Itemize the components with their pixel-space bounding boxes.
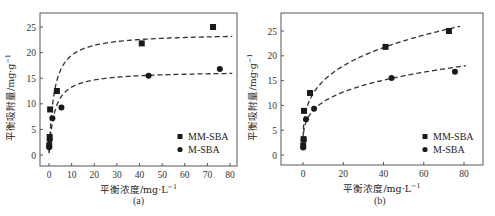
y-axis-label: 平衡吸附量/mg·g−1 [246,54,258,141]
data-point-circle [301,137,307,143]
legend-square-icon [423,134,428,139]
data-point-square [383,44,389,50]
x-tick-label: 40 [135,170,145,180]
legend-circle-icon [422,147,427,152]
data-point-square [301,108,307,114]
y-tick-label: 10 [268,101,278,111]
legend: MM-SBAM-SBA [422,131,474,155]
legend-label: MM-SBA [433,131,474,142]
y-tick-label: 25 [268,27,278,37]
legend-circle-icon [177,147,182,152]
x-axis-label: 平衡浓度/mg·L−1 [100,183,177,195]
x-tick-label: 80 [459,169,469,179]
data-point-circle [49,115,55,121]
x-axis-label: 平衡浓度/mg·L−1 [343,182,420,194]
data-point-circle [46,144,52,150]
x-tick-label: 60 [180,170,190,180]
data-point-square [307,90,313,96]
plot-frame [281,13,483,165]
chart-panel-a: 010203040506070800510152025平衡浓度/mg·L−1平衡… [4,13,237,195]
data-point-circle [303,116,309,122]
x-tick-label: 50 [157,170,167,180]
chart-panel-b: 0204060800510152025平衡浓度/mg·L−1平衡吸附量/mg·g… [246,13,483,194]
data-point-circle [217,66,223,72]
x-tick-label: 20 [339,169,349,179]
x-tick-label: 60 [419,169,429,179]
data-point-square [139,40,145,46]
y-tick-label: 20 [268,51,278,61]
x-tick-label: 80 [225,170,235,180]
legend-label: M-SBA [188,144,220,155]
data-point-circle [47,137,53,143]
y-tick-label: 20 [27,48,37,58]
x-tick-label: 30 [112,170,122,180]
x-tick-label: 10 [67,170,77,180]
data-point-square [54,88,60,94]
data-point-square [446,28,452,34]
x-tick-label: 0 [301,169,306,179]
data-point-circle [300,145,306,151]
x-tick-label: 20 [90,170,100,180]
x-tick-label: 70 [203,170,213,180]
legend-label: M-SBA [433,144,465,155]
y-tick-label: 0 [272,151,277,161]
x-tick-label: 40 [379,169,389,179]
data-point-circle [311,106,317,112]
fit-curve-mm-sba [303,26,460,137]
data-point-square [47,106,53,112]
data-point-circle [58,104,64,110]
adsorption-isotherm-figure: 010203040506070800510152025平衡浓度/mg·L−1平衡… [0,0,495,216]
y-tick-label: 10 [27,99,37,109]
panel-b-caption: (b) [374,195,386,206]
y-tick-label: 5 [272,126,277,136]
y-tick-label: 5 [31,125,36,135]
panel-a-caption: (a) [133,195,144,206]
y-tick-label: 15 [268,76,278,86]
y-tick-label: 15 [27,74,37,84]
data-point-circle [389,75,395,81]
legend-square-icon [178,134,183,139]
legend: MM-SBAM-SBA [177,131,229,155]
x-tick-label: 0 [47,170,52,180]
y-axis-label: 平衡吸附量/mg·g−1 [4,54,16,141]
data-point-square [210,24,216,30]
y-tick-label: 25 [27,23,37,33]
legend-label: MM-SBA [188,131,229,142]
data-point-circle [146,73,152,79]
y-tick-label: 0 [31,151,36,161]
data-point-circle [452,69,458,75]
